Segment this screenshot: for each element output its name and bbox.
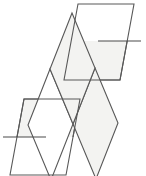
rhombic-net-figure xyxy=(0,0,146,176)
net-diagram-svg xyxy=(0,0,146,176)
